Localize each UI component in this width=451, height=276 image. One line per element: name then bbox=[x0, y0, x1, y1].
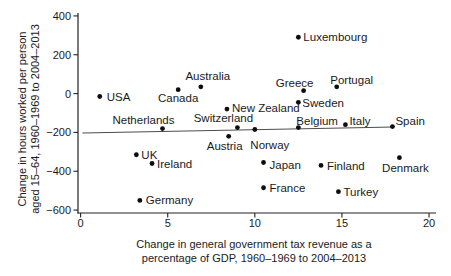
data-point-denmark bbox=[397, 155, 402, 160]
point-label-usa: USA bbox=[107, 91, 131, 103]
point-label-luxembourg: Luxembourg bbox=[303, 31, 367, 43]
y-axis-title-line1: Change in hours worked per person bbox=[16, 32, 28, 207]
point-label-uk: UK bbox=[141, 149, 157, 161]
x-tick-label: 0 bbox=[78, 217, 84, 229]
point-label-belgium: Belgium bbox=[296, 115, 338, 127]
hours-worked-vs-tax-revenue-scatter-chart: 4002000−200−400−60005101520USAUKGermanyI… bbox=[0, 0, 451, 276]
x-tick-label: 10 bbox=[249, 217, 261, 229]
point-label-japan: Japan bbox=[270, 159, 301, 171]
point-label-austria: Austria bbox=[207, 140, 243, 152]
data-point-switzerland bbox=[235, 125, 240, 130]
data-point-uk bbox=[134, 152, 139, 157]
data-point-sweden bbox=[296, 100, 301, 105]
data-point-ireland bbox=[150, 161, 155, 166]
data-point-germany bbox=[137, 198, 142, 203]
point-label-australia: Australia bbox=[185, 70, 230, 82]
point-label-france: France bbox=[270, 182, 306, 194]
data-point-norway bbox=[252, 127, 257, 132]
point-label-switzerland: Switzerland bbox=[194, 112, 253, 124]
data-point-new-zealand bbox=[225, 107, 230, 112]
point-label-denmark: Denmark bbox=[382, 162, 429, 174]
point-label-germany: Germany bbox=[146, 194, 194, 206]
x-tick-label: 5 bbox=[165, 217, 171, 229]
data-point-italy bbox=[343, 122, 348, 127]
point-label-portugal: Portugal bbox=[330, 74, 373, 86]
x-axis-title-line1: Change in general government tax revenue… bbox=[136, 238, 372, 250]
data-point-turkey bbox=[336, 189, 341, 194]
data-point-japan bbox=[261, 160, 266, 165]
point-label-spain: Spain bbox=[395, 115, 424, 127]
y-tick-label: −600 bbox=[46, 204, 71, 216]
point-label-turkey: Turkey bbox=[343, 186, 378, 198]
data-point-luxembourg bbox=[296, 35, 301, 40]
y-axis-title-line2: aged 15–64, 1960–1969 to 2004–2013 bbox=[29, 24, 41, 214]
y-tick-label: −200 bbox=[46, 126, 71, 138]
y-tick-label: 200 bbox=[53, 49, 71, 61]
y-tick-label: 0 bbox=[65, 88, 71, 100]
data-point-netherlands bbox=[160, 126, 165, 131]
point-label-sweden: Sweden bbox=[302, 97, 344, 109]
data-point-france bbox=[261, 185, 266, 190]
data-point-finland bbox=[319, 163, 324, 168]
data-point-usa bbox=[97, 94, 102, 99]
point-label-netherlands: Netherlands bbox=[112, 114, 174, 126]
y-tick-label: −400 bbox=[46, 165, 71, 177]
x-axis-title-line2: percentage of GDP, 1960–1969 to 2004–201… bbox=[142, 252, 366, 264]
point-label-norway: Norway bbox=[250, 139, 289, 151]
figure-page: 4002000−200−400−60005101520USAUKGermanyI… bbox=[0, 0, 451, 276]
data-point-austria bbox=[226, 134, 231, 139]
point-label-ireland: Ireland bbox=[157, 158, 192, 170]
x-tick-label: 15 bbox=[336, 217, 348, 229]
point-label-canada: Canada bbox=[158, 92, 199, 104]
data-point-australia bbox=[198, 84, 203, 89]
point-label-greece: Greece bbox=[276, 77, 314, 89]
point-label-italy: Italy bbox=[349, 115, 370, 127]
x-tick-label: 20 bbox=[423, 217, 435, 229]
y-tick-label: 400 bbox=[53, 10, 71, 22]
point-label-finland: Finland bbox=[327, 160, 365, 172]
data-point-spain bbox=[390, 124, 395, 129]
